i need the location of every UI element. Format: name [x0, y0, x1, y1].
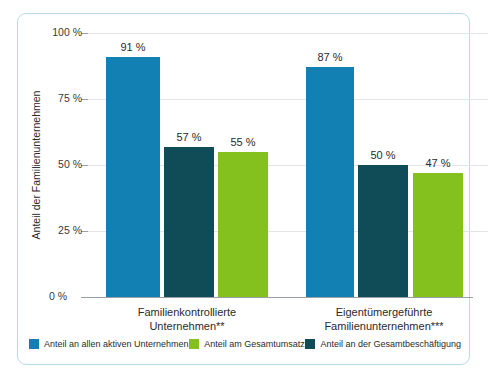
legend-item-label: Anteil an allen aktiven Unternehmen [44, 339, 189, 349]
x-category-label-0-line1: Familienkontrollierte [77, 305, 297, 319]
x-category-label-0: Familienkontrollierte Unternehmen** [77, 305, 297, 333]
gridline-100: 100 % [88, 33, 488, 34]
y-tick-label-50: 50 % [22, 158, 82, 170]
tick-dash-0 [81, 297, 88, 298]
legend-item-label: Anteil an der Gesamtbeschäftigung [320, 339, 461, 349]
bar-familienkontrollierte-gesamtumsatz[interactable]: 55 % [218, 152, 268, 297]
legend-item-aktive-unternehmen[interactable]: Anteil an allen aktiven Unternehmen [29, 339, 189, 349]
bar-value-label: 47 % [425, 157, 450, 169]
tick-dash-75 [81, 99, 88, 100]
bar-value-label: 91 % [120, 41, 145, 53]
chart-card: Anteil der Familienunternehmen 100 % 75 … [17, 13, 470, 365]
bar-value-label: 50 % [370, 149, 395, 161]
legend-swatch-icon [29, 339, 39, 349]
tick-dash-100 [81, 33, 88, 34]
x-axis-baseline: 0 % [88, 297, 473, 298]
bar-value-label: 57 % [176, 131, 201, 143]
plot-area: Anteil der Familienunternehmen 100 % 75 … [88, 33, 488, 297]
legend-swatch-icon [305, 339, 315, 349]
tick-dash-25 [81, 231, 88, 232]
y-tick-label-0: 0 % [7, 290, 67, 302]
tick-dash-50 [81, 165, 88, 166]
bar-eigentuemergefuehrte-gesamtbeschaeftigung[interactable]: 50 % [358, 165, 408, 297]
chart-legend: Anteil an allen aktiven Unternehmen Ante… [29, 339, 461, 349]
y-tick-label-25: 25 % [22, 224, 82, 236]
bar-eigentuemergefuehrte-gesamtumsatz[interactable]: 47 % [413, 173, 463, 297]
x-category-label-1: Eigentümergeführte Familienunternehmen**… [274, 305, 489, 333]
bar-value-label: 87 % [317, 51, 342, 63]
x-category-label-0-line2: Unternehmen** [77, 319, 297, 333]
legend-swatch-icon [189, 339, 199, 349]
x-category-label-1-line2: Familienunternehmen*** [274, 319, 489, 333]
legend-item-gesamtbeschaeftigung[interactable]: Anteil an der Gesamtbeschäftigung [305, 339, 461, 349]
legend-item-gesamtumsatz[interactable]: Anteil am Gesamtumsatz [189, 339, 305, 349]
y-tick-label-75: 75 % [22, 92, 82, 104]
bar-value-label: 55 % [230, 136, 255, 148]
y-tick-label-100: 100 % [22, 26, 82, 38]
bar-eigentuemergefuehrte-aktive-unternehmen[interactable]: 87 % [306, 67, 354, 297]
bar-familienkontrollierte-aktive-unternehmen[interactable]: 91 % [106, 57, 160, 297]
legend-item-label: Anteil am Gesamtumsatz [204, 339, 305, 349]
x-category-label-1-line1: Eigentümergeführte [274, 305, 489, 319]
bar-familienkontrollierte-gesamtbeschaeftigung[interactable]: 57 % [164, 147, 214, 297]
